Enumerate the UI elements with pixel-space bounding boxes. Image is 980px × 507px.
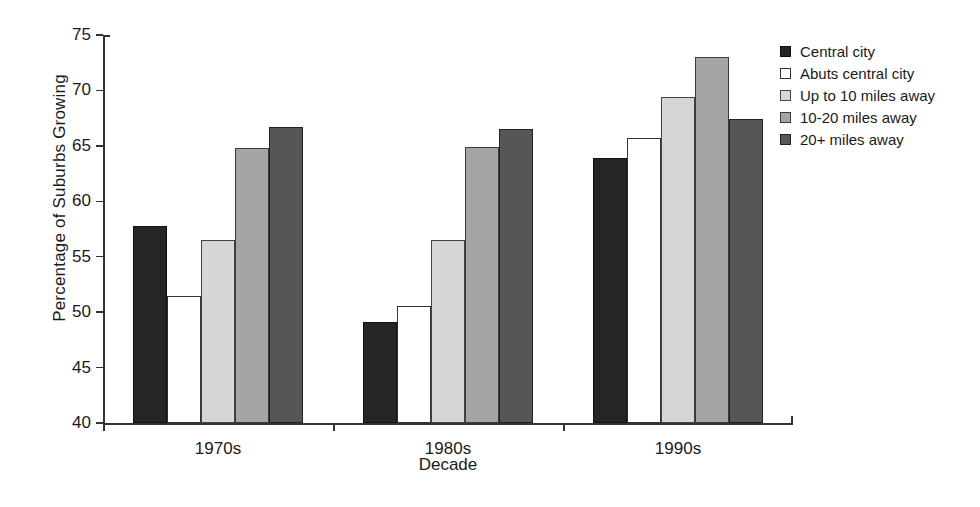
y-axis-tick <box>96 34 103 36</box>
bar-chart: Percentage of Suburbs Growing 4045505560… <box>0 0 980 507</box>
plot-area: 40455055606570751970s1980s1990s <box>103 35 793 423</box>
bar-1980s-20-miles-away <box>499 129 533 423</box>
bar-1970s-abuts-central-city <box>167 296 201 423</box>
y-axis-tick-label: 50 <box>72 302 91 322</box>
y-axis-tick-label: 45 <box>72 358 91 378</box>
bar-1980s-central-city <box>363 322 397 423</box>
bar-1990s-10-20-miles-away <box>695 57 729 423</box>
legend-item-label: Abuts central city <box>800 65 914 82</box>
y-axis-tick <box>96 145 103 147</box>
bar-1990s-20-miles-away <box>729 119 763 423</box>
legend-item: 20+ miles away <box>780 128 935 150</box>
legend-swatch-icon <box>780 90 791 101</box>
legend-item-label: 10-20 miles away <box>800 109 917 126</box>
y-axis-tick <box>96 256 103 258</box>
x-axis-tick <box>563 423 565 431</box>
legend-item: Central city <box>780 40 935 62</box>
bar-1970s-central-city <box>133 226 167 423</box>
y-axis-tick <box>96 90 103 92</box>
y-axis-line <box>103 35 105 423</box>
y-axis-tick-label: 65 <box>72 136 91 156</box>
legend-swatch-icon <box>780 112 791 123</box>
x-axis-tick <box>103 423 105 431</box>
legend: Central cityAbuts central cityUp to 10 m… <box>780 40 935 150</box>
bar-1970s-10-20-miles-away <box>235 148 269 423</box>
y-axis-tick-label: 55 <box>72 247 91 267</box>
x-axis-line <box>103 423 793 425</box>
y-axis-tick <box>96 367 103 369</box>
bar-1990s-up-to-10-miles-away <box>661 97 695 423</box>
x-axis-end-cap <box>791 416 793 424</box>
y-axis-tick-label: 70 <box>72 80 91 100</box>
x-axis-title: Decade <box>103 455 793 475</box>
y-axis-tick-label: 60 <box>72 191 91 211</box>
legend-item-label: Up to 10 miles away <box>800 87 935 104</box>
bar-1990s-central-city <box>593 158 627 423</box>
y-axis-title: Percentage of Suburbs Growing <box>50 0 70 408</box>
y-axis-top-cap <box>103 35 110 37</box>
legend-item-label: 20+ miles away <box>800 131 904 148</box>
bar-1980s-up-to-10-miles-away <box>431 240 465 423</box>
bar-1990s-abuts-central-city <box>627 138 661 423</box>
legend-item: Up to 10 miles away <box>780 84 935 106</box>
bar-1970s-20-miles-away <box>269 127 303 423</box>
legend-swatch-icon <box>780 134 791 145</box>
bar-1970s-up-to-10-miles-away <box>201 240 235 423</box>
x-axis-tick <box>333 423 335 431</box>
y-axis-tick-label: 40 <box>72 413 91 433</box>
y-axis-tick <box>96 201 103 203</box>
legend-swatch-icon <box>780 46 791 57</box>
legend-item-label: Central city <box>800 43 875 60</box>
legend-swatch-icon <box>780 68 791 79</box>
y-axis-tick <box>96 311 103 313</box>
legend-item: 10-20 miles away <box>780 106 935 128</box>
bar-1980s-10-20-miles-away <box>465 147 499 423</box>
legend-item: Abuts central city <box>780 62 935 84</box>
bar-1980s-abuts-central-city <box>397 306 431 424</box>
y-axis-tick <box>96 422 103 424</box>
y-axis-tick-label: 75 <box>72 25 91 45</box>
